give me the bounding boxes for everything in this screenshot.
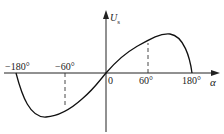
curve-us xyxy=(16,34,192,117)
y-axis-arrow-icon xyxy=(103,10,109,19)
tick-label-neg60: −60° xyxy=(55,62,75,72)
x-axis-label: α xyxy=(210,77,216,88)
tick-label-60: 60° xyxy=(139,76,153,86)
y-axis-label: Us xyxy=(110,13,120,26)
tick-label-neg180: −180° xyxy=(5,62,30,72)
y-label-sub: s xyxy=(117,18,120,26)
tick-label-0: 0 xyxy=(108,76,113,86)
tick-label-180: 180° xyxy=(182,76,201,86)
